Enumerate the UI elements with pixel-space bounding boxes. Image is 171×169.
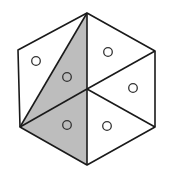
line-center-to-upper-right [87, 51, 155, 89]
circle-marker [103, 122, 112, 131]
hexagon-diagram [0, 0, 171, 169]
circle-marker [32, 57, 41, 66]
circle-marker [129, 84, 138, 93]
line-center-to-lower-right [87, 89, 155, 127]
shaded-triangle [20, 13, 87, 165]
circle-marker [104, 48, 113, 57]
